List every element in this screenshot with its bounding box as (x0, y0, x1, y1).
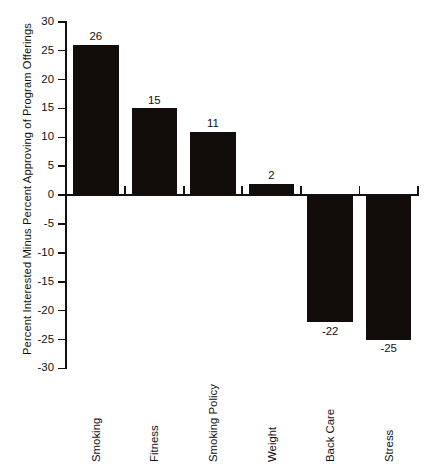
y-axis-tick (58, 79, 66, 81)
x-axis-tick (124, 186, 126, 195)
y-axis-tick-label-text: 5 (24, 160, 54, 171)
bar (307, 195, 353, 322)
x-axis-category-label: Fitness (147, 425, 161, 462)
y-axis-tick-label: -10 (22, 247, 54, 259)
y-axis-tick-label-text: -5 (24, 218, 54, 229)
x-axis-category-label: Smoking (89, 418, 103, 462)
y-axis-tick-label-text: 10 (24, 131, 54, 142)
y-axis-tick-label-text: 30 (24, 16, 54, 27)
x-axis-tick (241, 186, 243, 195)
y-axis-tick-label: 25 (22, 45, 54, 57)
bar (132, 108, 178, 195)
bar-value-label: -22 (294, 325, 366, 337)
y-axis-tick-label: 20 (22, 74, 54, 86)
y-axis-tick-label-text: -10 (24, 247, 54, 258)
bar-value-label: 15 (119, 94, 191, 106)
y-axis-tick-label: 10 (22, 131, 54, 143)
y-axis-tick (58, 21, 66, 23)
x-axis-tick (359, 186, 361, 195)
x-axis-category-label: Stress (382, 430, 396, 462)
y-axis-tick-label-text: 25 (24, 45, 54, 56)
y-axis-tick-label-text: -20 (24, 305, 54, 316)
bar (190, 132, 236, 196)
y-axis-tick (58, 368, 66, 370)
y-axis-tick (58, 281, 66, 283)
bar-chart-figure: Percent Interested Minus Percent Approvi… (0, 0, 440, 464)
y-axis-tick-label: -20 (22, 305, 54, 317)
bar (249, 184, 295, 196)
y-axis-tick-label: -5 (22, 218, 54, 230)
bar-value-label: 11 (177, 117, 249, 129)
y-axis-tick (58, 137, 66, 139)
x-axis-right-cap (417, 186, 419, 195)
bar (366, 195, 412, 339)
y-axis-tick-label: 5 (22, 160, 54, 172)
y-axis-tick-label-text: 15 (24, 102, 54, 113)
y-axis-tick (58, 108, 66, 110)
bar-value-label: 2 (236, 169, 308, 181)
x-axis-category-label: Smoking Policy (206, 384, 220, 462)
x-axis-tick (183, 186, 185, 195)
bar (73, 45, 119, 195)
y-axis-tick (58, 194, 66, 196)
y-axis-tick-label-text: -15 (24, 276, 54, 287)
y-axis-tick-label-text: -30 (24, 362, 54, 373)
y-axis-tick (58, 310, 66, 312)
y-axis-tick-label: -15 (22, 276, 54, 288)
y-axis-tick-label: -30 (22, 362, 54, 374)
y-axis-tick (58, 50, 66, 52)
y-axis-tick-label: 0 (22, 189, 54, 201)
y-axis-tick-label: -25 (22, 334, 54, 346)
x-axis-category-label: Weight (265, 427, 279, 462)
y-axis-tick (58, 339, 66, 341)
bar-value-label: 26 (60, 30, 132, 42)
y-axis-tick (58, 223, 66, 225)
y-axis-tick-label: 15 (22, 102, 54, 114)
x-axis-category-label: Back Care (323, 409, 337, 462)
y-axis-tick-label-text: 20 (24, 74, 54, 85)
bar-value-label: -25 (353, 342, 425, 354)
y-axis-tick (58, 165, 66, 167)
y-axis-tick-label-text: -25 (24, 334, 54, 345)
y-axis-tick (58, 252, 66, 254)
y-axis-tick-label: 30 (22, 16, 54, 28)
x-axis-tick (300, 186, 302, 195)
y-axis-tick-label-text: 0 (24, 189, 54, 200)
